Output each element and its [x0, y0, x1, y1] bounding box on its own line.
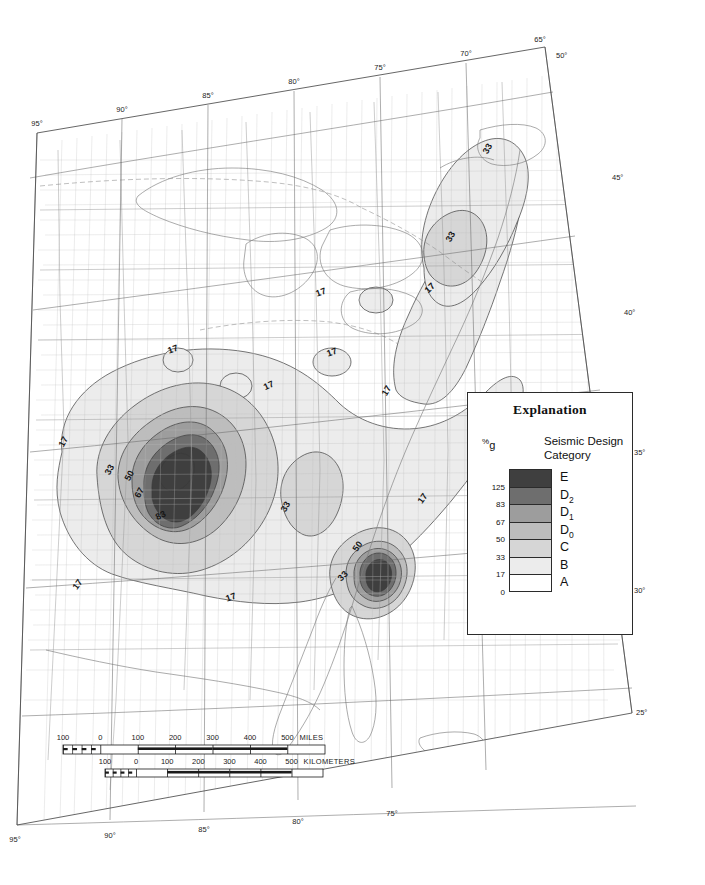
- legend-panel: Explanation %g Seismic Design Category 1…: [467, 392, 633, 635]
- scale-bar-divider: [213, 745, 214, 754]
- scale-bar-label: 300: [206, 733, 219, 742]
- scale-bar-subtick: [63, 748, 68, 750]
- scale-bar-subtick: [82, 748, 87, 750]
- scale-bar-divider: [136, 769, 137, 777]
- legend-units-label: %g: [482, 437, 495, 451]
- longitude-label-top: 90°: [116, 105, 127, 114]
- legend-category-d0: D0: [560, 522, 574, 540]
- longitude-label-bottom: 85°: [198, 825, 209, 834]
- legend-tick-83: 83: [472, 487, 507, 505]
- legend-title: Explanation: [468, 402, 632, 418]
- legend-swatch-b: [509, 557, 552, 575]
- scale-bar-label: 0: [134, 757, 138, 766]
- legend-tick-value: 0: [501, 588, 505, 597]
- longitude-label-top: 65°: [534, 35, 545, 44]
- scale-bar-divider: [121, 769, 122, 777]
- longitude-label-bottom: 95°: [9, 835, 20, 844]
- latitude-label-right: 30°: [634, 586, 645, 595]
- scale-bar-divider: [100, 745, 101, 754]
- scale-bar-divider: [167, 769, 168, 777]
- scale-bar-divider: [198, 769, 199, 777]
- scale-bar-label: 400: [244, 733, 257, 742]
- longitude-label-bottom: 75°: [386, 809, 397, 818]
- legend-swatch-c: [509, 539, 552, 557]
- longitude-label-top: 75°: [374, 63, 385, 72]
- longitude-label-top: 85°: [202, 91, 213, 100]
- scale-bar-graphic: [62, 744, 328, 755]
- scale-bar-label: 100: [57, 733, 70, 742]
- legend-category-a: A: [560, 574, 574, 592]
- latitude-label-right: 25°: [636, 708, 647, 717]
- scale-bar-divider: [138, 745, 139, 754]
- legend-tick-50: 50: [472, 522, 507, 540]
- legend-tick-125: 125: [472, 469, 507, 487]
- scale-bar-label: 500: [281, 733, 294, 742]
- scale-bar-label: 100: [99, 757, 112, 766]
- band-b-island-lakeerie: [359, 287, 393, 313]
- legend-tick-0: 0: [472, 574, 507, 592]
- legend-swatch-d1: [509, 504, 552, 522]
- longitude-label-top: 80°: [288, 77, 299, 86]
- longitude-label-bottom: 80°: [292, 817, 303, 826]
- scale-bar-miles: 1000100200300400500MILES: [62, 744, 328, 755]
- legend-swatch-d0: [509, 522, 552, 540]
- legend-category-column: ED2D1D0CBA: [560, 469, 574, 592]
- scale-bar-subtick: [72, 748, 77, 750]
- scale-bar-unit: KILOMETERS: [304, 757, 355, 766]
- scale-bar-divider: [91, 745, 92, 754]
- scale-bar-label: 500: [285, 757, 298, 766]
- legend-g-symbol: g: [489, 439, 495, 451]
- legend-category-subscript: 0: [569, 529, 574, 539]
- latitude-label-right: 35°: [634, 448, 645, 457]
- longitude-label-top: 95°: [31, 119, 42, 128]
- scale-bar-divider: [63, 745, 64, 754]
- scale-bar-divider: [113, 769, 114, 777]
- scale-bar-divider: [128, 769, 129, 777]
- scale-bar-subtick: [91, 748, 96, 750]
- legend-tick-67: 67: [472, 504, 507, 522]
- legend-category-d2: D2: [560, 487, 574, 505]
- legend-swatch-column: [509, 469, 552, 592]
- legend-category-d1: D1: [560, 504, 574, 522]
- scale-bar-divider: [261, 769, 262, 777]
- legend-tick-33: 33: [472, 539, 507, 557]
- longitude-label-top: 70°: [460, 49, 471, 58]
- longitude-label-bottom: 90°: [104, 831, 115, 840]
- scale-bar-label: 0: [98, 733, 102, 742]
- scale-bar-divider: [250, 745, 251, 754]
- legend-swatch-a: [509, 574, 552, 592]
- legend-header-line2: Category: [544, 449, 623, 463]
- scale-bar-divider: [72, 745, 73, 754]
- legend-category-c: C: [560, 539, 574, 557]
- scale-bar-label: 100: [161, 757, 174, 766]
- latitude-label-right: 50°: [556, 51, 567, 60]
- scale-bar-label: 400: [254, 757, 267, 766]
- scale-bar-graphic: [104, 768, 326, 778]
- legend-header-line1: Seismic Design: [544, 435, 623, 449]
- legend-swatch-d2: [509, 487, 552, 505]
- scale-bar-divider: [287, 745, 288, 754]
- legend-category-e: E: [560, 469, 574, 487]
- scale-bar-divider: [229, 769, 230, 777]
- scale-bar-label: 200: [192, 757, 205, 766]
- map-figure: 95°90°85°80°75°70°65°95°90°85°80°75°50°4…: [0, 0, 705, 885]
- scale-bar-divider: [292, 769, 293, 777]
- scale-bar-filled-segment: [167, 771, 229, 774]
- legend-tick-column: 12583675033170: [472, 469, 507, 592]
- latitude-label-right: 40°: [624, 308, 635, 317]
- legend-category-subscript: 1: [569, 512, 574, 522]
- scale-bar-label: 200: [169, 733, 182, 742]
- scale-bar-label: 100: [132, 733, 145, 742]
- scale-bar-kilometers: 1000100200300400500KILOMETERS: [104, 768, 326, 778]
- scale-bar-divider: [105, 769, 106, 777]
- legend-category-subscript: 2: [569, 494, 574, 504]
- scale-bar-label: 300: [223, 757, 236, 766]
- legend-category-header: Seismic Design Category: [544, 435, 623, 462]
- legend-swatch-e: [509, 469, 552, 487]
- scale-bar-divider: [175, 745, 176, 754]
- legend-tick-17: 17: [472, 557, 507, 575]
- scale-bar-unit: MILES: [299, 733, 323, 742]
- scale-bar-divider: [82, 745, 83, 754]
- legend-category-b: B: [560, 557, 574, 575]
- latitude-label-right: 45°: [612, 173, 623, 182]
